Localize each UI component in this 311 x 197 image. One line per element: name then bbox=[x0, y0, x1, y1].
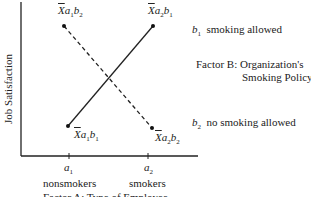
tick-label-a1: a1 bbox=[64, 161, 73, 176]
factor-b-line1: Factor B: Organization's bbox=[196, 58, 303, 70]
point-a2b2 bbox=[150, 126, 154, 130]
legend-b2: b2 no smoking allowed bbox=[192, 116, 296, 131]
label-a1b2: Xa1b2 bbox=[58, 4, 83, 19]
label-a2b2: Xa2b2 bbox=[155, 131, 180, 146]
label-a2b1: Xa2b1 bbox=[148, 4, 173, 19]
factor-a-label: Factor A: Type of Employee bbox=[43, 191, 168, 197]
y-axis-label: Job Satisfaction bbox=[2, 54, 14, 124]
point-a1b2 bbox=[62, 24, 66, 28]
label-a1b1: Xa1b1 bbox=[74, 128, 99, 143]
category-nonsmokers: nonsmokers bbox=[43, 177, 96, 189]
category-smokers: smokers bbox=[129, 177, 166, 189]
factor-b-line2: Smoking Policy bbox=[242, 71, 311, 83]
point-a2b1 bbox=[151, 24, 155, 28]
point-a1b1 bbox=[66, 124, 70, 128]
tick-label-a2: a2 bbox=[144, 161, 153, 176]
legend-b1: b1 smoking allowed bbox=[192, 23, 282, 38]
b1-solid-line bbox=[68, 26, 153, 126]
b2-dashed-line bbox=[64, 26, 152, 128]
